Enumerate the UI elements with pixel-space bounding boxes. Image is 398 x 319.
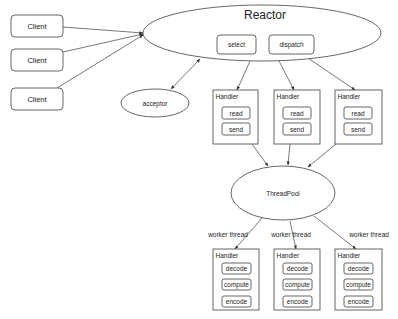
edge-client-1-reactor bbox=[63, 27, 143, 33]
reactor-select: select bbox=[228, 41, 245, 48]
handler-2-read: read bbox=[290, 110, 303, 117]
reactor: Reactor select dispatch bbox=[143, 5, 381, 61]
worker-handler-1: Handler decode compute encode bbox=[213, 249, 259, 310]
handler-2-send: send bbox=[290, 126, 304, 133]
client-2-label: Client bbox=[27, 56, 47, 65]
edge-client-3-reactor bbox=[57, 35, 143, 88]
handler-1-send: send bbox=[229, 126, 243, 133]
handler-3: Handler read send bbox=[335, 90, 382, 144]
handler-1: Handler read send bbox=[213, 90, 258, 144]
threadpool-label: ThreadPool bbox=[266, 190, 300, 197]
client-1: Client bbox=[11, 15, 63, 37]
acceptor-label: acceptor bbox=[143, 100, 169, 108]
handler-1-read: read bbox=[229, 110, 242, 117]
worker-thread-label-3: worker thread bbox=[348, 231, 389, 238]
worker-handler-2-decode: decode bbox=[287, 265, 309, 272]
worker-handler-3: Handler decode compute encode bbox=[335, 249, 382, 310]
handler-3-read: read bbox=[351, 110, 364, 117]
worker-handler-2-compute: compute bbox=[285, 281, 310, 289]
worker-handler-1-compute: compute bbox=[224, 281, 249, 289]
edge-reactor-handler-1 bbox=[237, 61, 250, 90]
worker-handler-2: Handler decode compute encode bbox=[274, 249, 320, 310]
client-3: Client bbox=[11, 88, 63, 110]
edge-handler-2-threadpool bbox=[288, 144, 290, 165]
handler-3-label: Handler bbox=[338, 93, 362, 100]
worker-thread-label-1: worker thread bbox=[207, 231, 248, 238]
handler-2-label: Handler bbox=[277, 93, 301, 100]
worker-handler-1-label: Handler bbox=[216, 252, 240, 259]
worker-handler-3-label: Handler bbox=[338, 252, 362, 259]
worker-handler-3-encode: encode bbox=[348, 298, 370, 305]
reactor-threadpool-diagram: Client Client Client Reactor select disp… bbox=[0, 0, 398, 319]
edge-reactor-acceptor bbox=[171, 59, 200, 89]
handler-3-send: send bbox=[351, 126, 365, 133]
client-2: Client bbox=[11, 49, 63, 71]
handler-1-label: Handler bbox=[216, 93, 240, 100]
edge-reactor-handler-3 bbox=[308, 58, 355, 90]
worker-handler-2-label: Handler bbox=[277, 252, 301, 259]
acceptor: acceptor bbox=[121, 89, 189, 117]
reactor-dispatch: dispatch bbox=[279, 41, 304, 49]
client-3-label: Client bbox=[27, 95, 47, 104]
worker-handler-1-decode: decode bbox=[226, 265, 248, 272]
edge-handler-1-threadpool bbox=[252, 144, 268, 166]
edge-handler-3-threadpool bbox=[308, 144, 336, 167]
client-1-label: Client bbox=[27, 22, 47, 31]
edge-reactor-handler-2 bbox=[279, 61, 294, 90]
reactor-title: Reactor bbox=[244, 8, 286, 22]
worker-handler-3-compute: compute bbox=[346, 281, 371, 289]
worker-handler-1-encode: encode bbox=[226, 298, 248, 305]
threadpool: ThreadPool bbox=[231, 166, 335, 220]
worker-thread-label-2: worker thread bbox=[270, 231, 311, 238]
worker-handler-2-encode: encode bbox=[287, 298, 309, 305]
handler-2: Handler read send bbox=[274, 90, 320, 144]
edge-client-2-reactor bbox=[63, 34, 143, 52]
worker-handler-3-decode: decode bbox=[348, 265, 370, 272]
